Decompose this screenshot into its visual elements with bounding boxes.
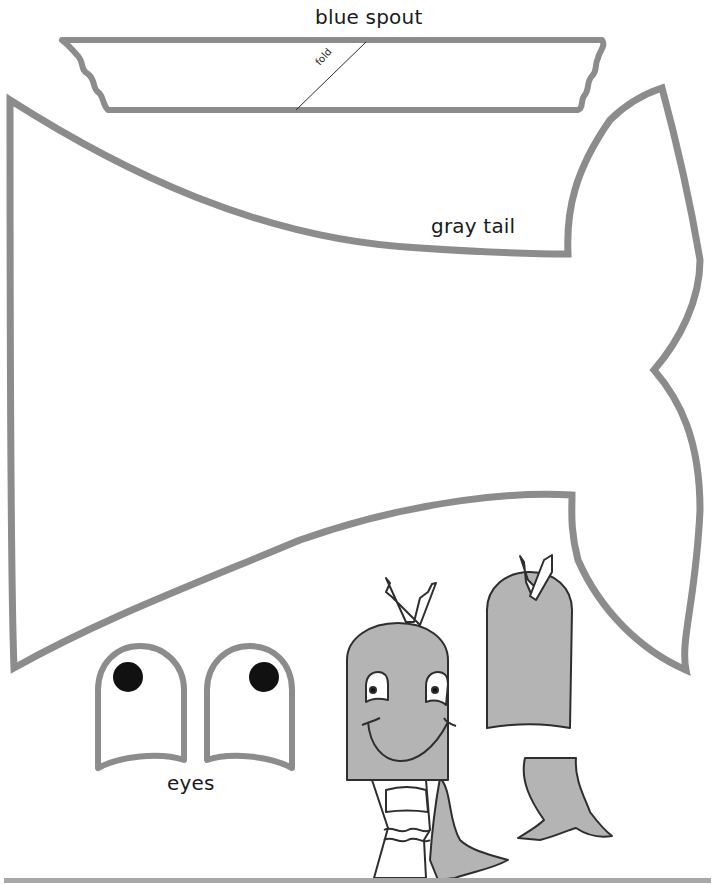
bottom-rule bbox=[4, 878, 711, 883]
craft-template-page: blue spout fold gray tail eyes bbox=[0, 0, 713, 884]
whale-puppet-front-illustration bbox=[347, 578, 508, 880]
tail-label: gray tail bbox=[431, 214, 515, 238]
pupil-icon bbox=[249, 662, 279, 692]
pupil-icon bbox=[113, 662, 143, 692]
whale-puppet-back-illustration bbox=[487, 555, 612, 840]
whale-tail-outline-icon bbox=[10, 88, 700, 670]
eyes-label: eyes bbox=[167, 771, 215, 795]
eye-outline-icon-left bbox=[98, 646, 184, 768]
pattern-drawing bbox=[0, 0, 713, 884]
spout-label: blue spout bbox=[315, 5, 422, 29]
eye-outline-icon-right bbox=[207, 646, 292, 768]
